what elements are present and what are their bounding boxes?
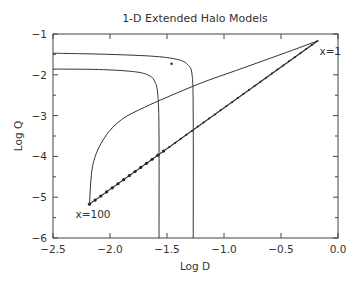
y-tick-label: −1	[32, 28, 47, 40]
series-marker	[94, 198, 97, 201]
series-marker	[214, 113, 216, 115]
series-marker	[162, 149, 165, 152]
x-tick-label: −1.5	[154, 243, 180, 255]
series-marker	[145, 162, 148, 165]
series-marker	[133, 170, 136, 173]
y-tick-label: −2	[32, 69, 47, 81]
y-tick-label: −5	[32, 191, 47, 203]
y-axis-label: Log Q	[12, 121, 24, 151]
series-marker	[151, 158, 154, 161]
series-marker	[111, 186, 114, 189]
x-tick-label: 0.0	[330, 243, 347, 255]
x-tick-label: −0.5	[268, 243, 294, 255]
series-marker	[254, 85, 256, 87]
series-marker	[277, 68, 279, 70]
series-marker	[294, 56, 296, 58]
annotation-label: x=100	[75, 208, 110, 220]
y-tick-label: −4	[32, 150, 48, 162]
series-marker	[128, 174, 131, 177]
series-marker	[180, 138, 182, 140]
series-marker	[248, 89, 250, 91]
series-marker	[311, 44, 313, 46]
series-marker	[99, 194, 102, 197]
x-tick-label: −2.0	[97, 243, 123, 255]
series-marker	[282, 64, 284, 66]
series-marker	[202, 122, 204, 124]
chart: 1-D Extended Halo Models −2.5−2.0−1.5−1.…	[0, 0, 362, 283]
series-marker	[237, 97, 239, 99]
data-point	[170, 63, 172, 65]
series-marker	[197, 126, 199, 128]
series-marker	[220, 109, 222, 111]
y-tick-label: −3	[32, 110, 47, 122]
annotations: x=1x=100	[75, 45, 341, 220]
series-marker	[122, 178, 125, 181]
series-marker	[105, 190, 108, 193]
series-marker	[174, 142, 176, 144]
annotation-label: x=1	[319, 45, 341, 57]
chart-title: 1-D Extended Halo Models	[122, 12, 268, 25]
series-marker	[208, 117, 210, 119]
series-marker	[139, 166, 142, 169]
x-tick-label: −1.0	[211, 243, 237, 255]
series-marker	[299, 52, 301, 54]
series-marker	[116, 182, 119, 185]
series-marker	[271, 73, 273, 75]
x-axis-label: Log D	[180, 260, 210, 272]
series-marker	[242, 93, 244, 95]
series-marker	[185, 134, 187, 136]
series-marker	[265, 77, 267, 79]
series-marker	[305, 48, 307, 50]
series-marker	[225, 105, 227, 107]
series-marker	[231, 101, 233, 103]
series-marker	[259, 81, 261, 83]
series-marker	[288, 60, 290, 62]
y-tick-label: −6	[32, 232, 48, 244]
series-marker	[168, 146, 170, 148]
x-tick-label: −2.5	[40, 243, 66, 255]
